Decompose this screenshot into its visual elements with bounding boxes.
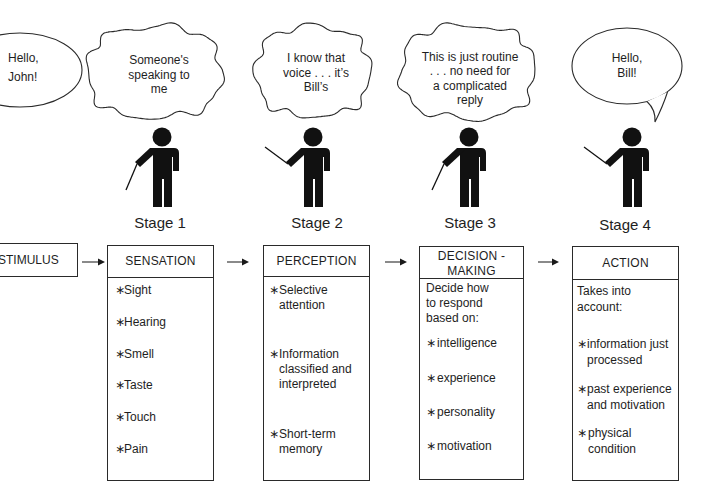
list-item: ∗ Hearing — [115, 315, 166, 330]
asterisk-bullet-icon: ∗ — [115, 347, 124, 362]
head-icon — [460, 128, 479, 147]
thought-line: Someone's — [99, 53, 219, 68]
intro-text: Decide how — [426, 281, 489, 296]
item-text: Short-term — [279, 427, 336, 442]
intro-text: Takes into — [577, 283, 631, 299]
asterisk-bullet-icon: ∗ — [577, 336, 587, 368]
arrow-decision-to-action — [538, 259, 559, 266]
decision-making-header: DECISION - MAKING — [420, 247, 523, 279]
box-title: PERCEPTION — [276, 254, 356, 269]
asterisk-bullet-icon: ∗ — [115, 442, 124, 457]
item-text: Pain — [124, 442, 148, 457]
perception-box: PERCEPTION ∗ Selective attention ∗ Infor… — [263, 245, 370, 481]
item-text: information just — [587, 336, 668, 352]
list-item: ∗ Short-term memory — [269, 427, 336, 457]
list-item: ∗ personality — [426, 405, 495, 420]
list-item: ∗ motivation — [426, 439, 492, 454]
asterisk-bullet-icon: ∗ — [115, 410, 124, 425]
thought-line: speaking to — [99, 68, 219, 83]
pointer-stick-icon — [584, 147, 607, 164]
speech-line: Hello, — [577, 51, 677, 66]
asterisk-bullet-icon: ∗ — [269, 347, 279, 392]
item-text: intelligence — [437, 336, 497, 351]
list-item: ∗ Sight — [115, 283, 151, 298]
head-icon — [304, 128, 323, 147]
intro-text: account: — [577, 299, 631, 315]
stimulus-label: STIMULUS — [0, 253, 59, 267]
list-item: ∗ intelligence — [426, 336, 497, 351]
item-text: physical — [588, 425, 636, 441]
pointer-stick-icon — [432, 164, 444, 190]
stage-label-3: Stage 3 — [430, 214, 510, 231]
item-text: memory — [279, 442, 336, 457]
decision-making-box: DECISION - MAKING Decide how to respond … — [419, 246, 524, 480]
stimulus-box: STIMULUS — [0, 243, 78, 277]
thought-line: . . . no need for — [400, 64, 540, 78]
person-figure-stage-3 — [432, 128, 486, 208]
speech-line: Hello, — [8, 49, 39, 68]
box-title: SENSATION — [125, 254, 195, 269]
thought-text-stage-1: Someone's speaking to me — [99, 53, 219, 97]
item-text: Hearing — [124, 315, 166, 330]
speech-line: Bill! — [577, 66, 677, 81]
asterisk-bullet-icon: ∗ — [426, 405, 437, 420]
list-item: ∗ Taste — [115, 378, 153, 393]
list-item: ∗ information just processed — [577, 336, 668, 368]
perception-header: PERCEPTION — [264, 246, 369, 277]
arrow-perception-to-decision — [385, 259, 407, 266]
thought-text-stage-3: This is just routine . . . no need for a… — [400, 50, 540, 107]
item-text: Information — [279, 347, 352, 362]
arrow-stimulus-to-sensation — [82, 259, 105, 266]
item-text: interpreted — [279, 377, 352, 392]
thought-line: This is just routine — [400, 50, 540, 64]
asterisk-bullet-icon: ∗ — [115, 283, 124, 298]
sensation-header: SENSATION — [108, 246, 213, 278]
intro-text: based on: — [426, 311, 489, 326]
thought-text-stage-2: I know that voice . . . it’s Bill’s — [256, 51, 376, 95]
person-figure-stage-1 — [126, 128, 179, 208]
asterisk-bullet-icon: ∗ — [577, 381, 587, 413]
thought-line: reply — [400, 93, 540, 107]
decision-intro: Decide how to respond based on: — [426, 281, 489, 326]
asterisk-bullet-icon: ∗ — [577, 425, 588, 457]
item-text: processed — [587, 352, 668, 368]
action-intro: Takes into account: — [577, 283, 631, 315]
item-text: Selective — [279, 283, 328, 298]
head-icon — [623, 128, 642, 147]
list-item: ∗ physical condition — [577, 425, 636, 457]
box-title: ACTION — [602, 256, 649, 271]
asterisk-bullet-icon: ∗ — [115, 378, 124, 393]
head-icon — [153, 128, 172, 147]
speech-text-bill: Hello, Bill! — [577, 51, 677, 80]
sensation-box: SENSATION ∗ Sight ∗ Hearing ∗ Smell ∗ Ta… — [107, 245, 214, 481]
thought-line: Bill’s — [256, 80, 376, 95]
item-text: classified and — [279, 362, 352, 377]
asterisk-bullet-icon: ∗ — [269, 283, 279, 313]
thought-line: I know that — [256, 51, 376, 66]
item-text: and motivation — [587, 397, 672, 413]
stage-label-1: Stage 1 — [120, 214, 200, 231]
item-text: personality — [437, 405, 495, 420]
list-item: ∗ Information classified and interpreted — [269, 347, 352, 392]
item-text: Taste — [124, 378, 153, 393]
list-item: ∗ experience — [426, 371, 496, 386]
asterisk-bullet-icon: ∗ — [115, 315, 124, 330]
item-text: attention — [279, 298, 328, 313]
action-box: ACTION Takes into account: ∗ information… — [572, 246, 679, 481]
item-text: past experience — [587, 381, 672, 397]
list-item: ∗ Touch — [115, 410, 156, 425]
item-text: experience — [437, 371, 496, 386]
action-header: ACTION — [573, 247, 678, 280]
item-text: Sight — [124, 283, 151, 298]
pointer-stick-icon — [265, 147, 288, 164]
thought-line: a complicated — [400, 79, 540, 93]
speech-line: John! — [8, 68, 39, 87]
stage-label-4: Stage 4 — [585, 216, 665, 233]
asterisk-bullet-icon: ∗ — [426, 439, 437, 454]
intro-text: to respond — [426, 296, 489, 311]
item-text: condition — [588, 441, 636, 457]
list-item: ∗ Smell — [115, 347, 154, 362]
arrow-sensation-to-perception — [227, 259, 249, 266]
list-item: ∗ Pain — [115, 442, 148, 457]
person-figure-stage-4 — [584, 128, 649, 208]
